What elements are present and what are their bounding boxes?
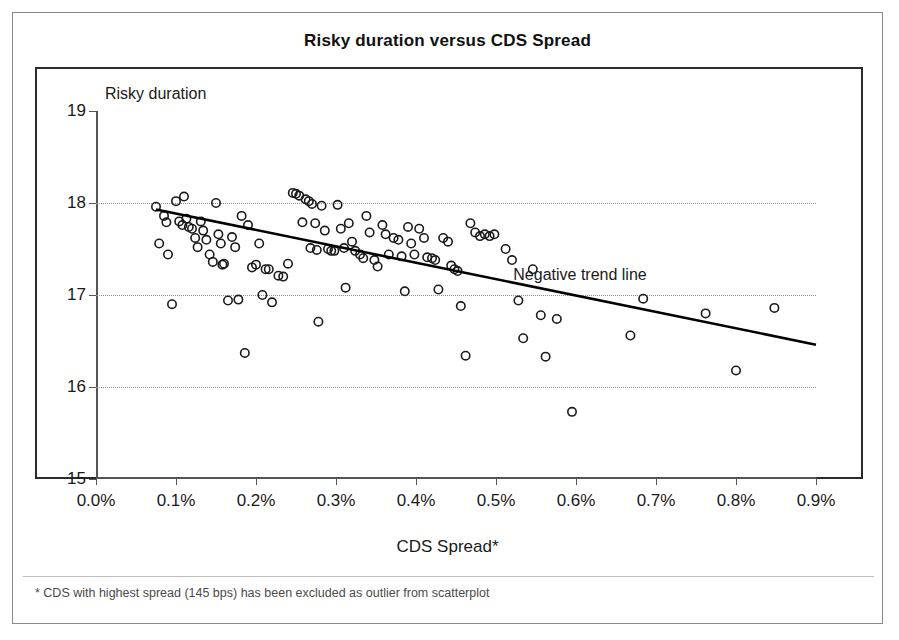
scatter-point — [407, 239, 415, 247]
scatter-point — [298, 218, 306, 226]
x-tick-label: 0.7% — [637, 491, 676, 511]
plot-area: 1516171819 0.0%0.1%0.2%0.3%0.4%0.5%0.6%0… — [96, 111, 816, 479]
scatter-point — [228, 233, 236, 241]
scatter-point — [237, 212, 245, 220]
scatter-point — [434, 285, 442, 293]
scatter-point — [537, 311, 545, 319]
x-tick-label: 0.8% — [717, 491, 756, 511]
scatter-point — [401, 287, 409, 295]
scatter-point — [466, 219, 474, 227]
scatter-point — [457, 302, 465, 310]
scatter-point — [212, 199, 220, 207]
scatter-point — [404, 223, 412, 231]
scatter-point — [341, 283, 349, 291]
x-tick-mark — [496, 478, 497, 485]
x-tick-mark — [336, 478, 337, 485]
x-tick-mark — [256, 478, 257, 485]
chart-figure: Risky duration versus CDS Spread Risky d… — [12, 12, 883, 624]
scatter-point — [217, 239, 225, 247]
y-tick-mark — [89, 295, 96, 296]
scatter-point — [519, 334, 527, 342]
scatter-point — [770, 304, 778, 312]
x-tick-label: 0.2% — [237, 491, 276, 511]
scatter-point — [541, 352, 549, 360]
y-tick-mark — [89, 479, 96, 480]
scatter-point — [180, 192, 188, 200]
scatter-point — [381, 230, 389, 238]
y-tick-label: 18 — [67, 193, 86, 213]
scatter-point — [199, 226, 207, 234]
trend-line-annotation: Negative trend line — [513, 266, 646, 284]
x-axis-title: CDS Spread* — [13, 537, 882, 557]
scatter-point — [241, 349, 249, 357]
scatter-point — [626, 331, 634, 339]
y-tick-label: 15 — [67, 469, 86, 489]
y-tick-mark — [89, 111, 96, 112]
scatter-point — [508, 256, 516, 264]
footnote: * CDS with highest spread (145 bps) has … — [35, 586, 489, 600]
scatter-point — [231, 243, 239, 251]
scatter-point — [258, 291, 266, 299]
scatter-point — [314, 317, 322, 325]
x-tick-mark — [96, 478, 97, 485]
scatter-point — [378, 221, 386, 229]
scatter-point — [284, 260, 292, 268]
scatter-point — [415, 225, 423, 233]
x-tick-mark — [416, 478, 417, 485]
x-tick-label: 0.3% — [317, 491, 356, 511]
scatter-point — [639, 294, 647, 302]
scatter-point — [701, 309, 709, 317]
scatter-point — [345, 219, 353, 227]
x-tick-label: 0.4% — [397, 491, 436, 511]
x-tick-label: 0.1% — [157, 491, 196, 511]
scatter-point — [501, 245, 509, 253]
x-tick-label: 0.6% — [557, 491, 596, 511]
x-tick-mark — [736, 478, 737, 485]
chart-title: Risky duration versus CDS Spread — [13, 31, 882, 51]
x-tick-label: 0.5% — [477, 491, 516, 511]
x-tick-label: 0.9% — [797, 491, 836, 511]
scatter-point — [234, 295, 242, 303]
scatter-point — [321, 226, 329, 234]
scatter-point — [317, 202, 325, 210]
scatter-point — [268, 298, 276, 306]
scatter-point — [732, 366, 740, 374]
scatter-point — [172, 197, 180, 205]
y-axis-title: Risky duration — [105, 85, 206, 103]
scatter-point — [365, 228, 373, 236]
y-tick-label: 16 — [67, 377, 86, 397]
footnote-divider — [23, 576, 874, 577]
scatter-point — [311, 219, 319, 227]
scatter-data-layer — [96, 111, 816, 479]
scatter-point — [362, 212, 370, 220]
y-tick-mark — [89, 387, 96, 388]
x-tick-label: 0.0% — [77, 491, 116, 511]
scatter-point — [255, 239, 263, 247]
x-tick-mark — [176, 478, 177, 485]
scatter-point — [191, 234, 199, 242]
scatter-point — [193, 243, 201, 251]
scatter-point — [209, 258, 217, 266]
scatter-point — [337, 225, 345, 233]
scatter-point — [168, 300, 176, 308]
y-tick-mark — [89, 203, 96, 204]
x-tick-mark — [576, 478, 577, 485]
x-tick-mark — [816, 478, 817, 485]
scatter-point — [514, 296, 522, 304]
scatter-point — [202, 236, 210, 244]
x-tick-mark — [656, 478, 657, 485]
scatter-point — [224, 296, 232, 304]
scatter-point — [214, 230, 222, 238]
scatter-point — [348, 237, 356, 245]
scatter-point — [420, 234, 428, 242]
scatter-point — [568, 408, 576, 416]
scatter-point — [553, 315, 561, 323]
y-tick-label: 17 — [67, 285, 86, 305]
scatter-point — [164, 250, 172, 258]
scatter-point — [461, 352, 469, 360]
y-tick-label: 19 — [67, 101, 86, 121]
scatter-point — [155, 239, 163, 247]
scatter-point — [333, 201, 341, 209]
scatter-point — [410, 250, 418, 258]
